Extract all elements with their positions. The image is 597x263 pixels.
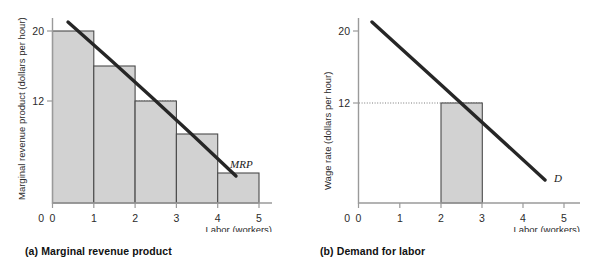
panel-a-y-axis-title: Marginal revenue product (dollars per ho… xyxy=(16,17,27,200)
panel-a-xtick-label-1: 1 xyxy=(91,212,97,224)
panel-b-demand-for-labor: 20 12 0 0 1 2 3 4 5 Wage rate (dollars p… xyxy=(300,0,597,263)
panel-b-xtick-label-5: 5 xyxy=(561,212,567,224)
bar-worker-5 xyxy=(218,173,259,203)
panel-b-y-axis-title: Wage rate (dollars per hour) xyxy=(322,72,333,190)
panel-b-ytick-label-20: 20 xyxy=(338,25,350,37)
panel-b-xtick-label-4: 4 xyxy=(520,212,526,224)
panel-a-xtick-label-2: 2 xyxy=(132,212,138,224)
panel-b-plot: 20 12 0 0 1 2 3 4 5 Wage rate (dollars p… xyxy=(300,0,597,232)
panel-b-ytick-label-0: 0 xyxy=(344,212,350,224)
panel-b-x-axis-title: Labor (workers) xyxy=(513,224,580,232)
bar-worker-4 xyxy=(176,134,217,203)
bar-worker-2 xyxy=(94,66,135,203)
panel-a-x-axis-title: Labor (workers) xyxy=(205,224,272,232)
panel-a-ytick-label-12: 12 xyxy=(32,95,44,107)
panel-a-caption: (a) Marginal revenue product xyxy=(25,245,172,257)
panel-b-xtick-label-0: 0 xyxy=(356,212,362,224)
panel-a-plot: 20 12 0 0 1 2 3 4 5 Marginal revenue pro… xyxy=(0,0,300,232)
panel-b-xtick-label-1: 1 xyxy=(397,212,403,224)
panel-a-xtick-label-0: 0 xyxy=(50,212,56,224)
demand-curve-label: D xyxy=(553,172,562,184)
panel-b-ytick-label-12: 12 xyxy=(338,97,350,109)
figure-marginal-revenue-product-and-labor-demand: 20 12 0 0 1 2 3 4 5 Marginal revenue pro… xyxy=(0,0,597,263)
panel-a-xtick-label-5: 5 xyxy=(256,212,262,224)
bar-worker-1 xyxy=(53,31,94,203)
panel-b-caption: (b) Demand for labor xyxy=(320,245,425,257)
mrp-curve-label: MRP xyxy=(229,158,253,170)
panel-a-xtick-label-3: 3 xyxy=(173,212,179,224)
panel-b-xtick-label-2: 2 xyxy=(438,212,444,224)
panel-a-marginal-revenue-product: 20 12 0 0 1 2 3 4 5 Marginal revenue pro… xyxy=(0,0,300,263)
panel-a-xtick-label-4: 4 xyxy=(215,212,221,224)
panel-a-ytick-label-0: 0 xyxy=(38,212,44,224)
panel-a-ytick-label-20: 20 xyxy=(32,25,44,37)
panel-b-xtick-label-3: 3 xyxy=(479,212,485,224)
